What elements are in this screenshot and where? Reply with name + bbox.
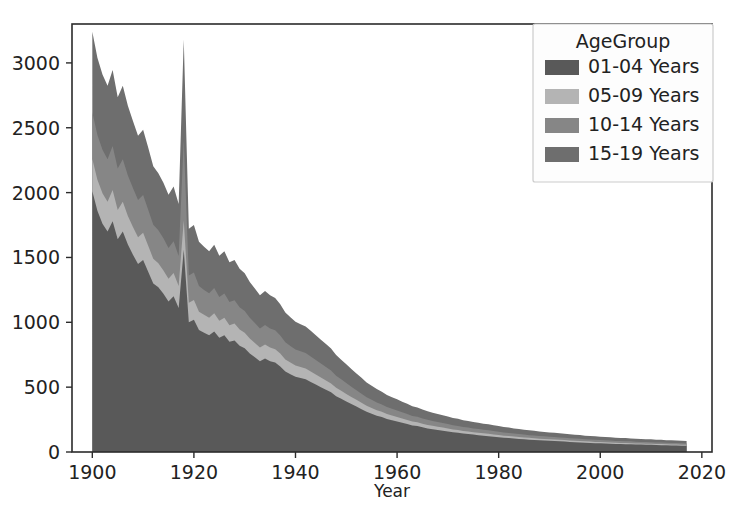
y-tick-label: 1000 <box>12 311 60 333</box>
stacked-area-chart: 1900192019401960198020002020 05001000150… <box>0 0 736 530</box>
x-axis-title: Year <box>373 481 410 501</box>
x-tick-label: 1940 <box>271 461 319 483</box>
legend-title: AgeGroup <box>576 30 671 52</box>
x-tick-label: 1920 <box>170 461 218 483</box>
legend-label: 01-04 Years <box>588 55 699 77</box>
y-tick-label: 0 <box>48 441 60 463</box>
y-tick-label: 1500 <box>12 246 60 268</box>
x-tick-label: 2020 <box>678 461 726 483</box>
legend-swatch <box>545 147 579 162</box>
y-tick-label: 3000 <box>12 52 60 74</box>
y-tick-label: 2000 <box>12 182 60 204</box>
y-tick-label: 2500 <box>12 117 60 139</box>
chart-figure: 1900192019401960198020002020 05001000150… <box>0 0 736 530</box>
legend[interactable]: AgeGroup 01-04 Years05-09 Years10-14 Yea… <box>533 24 713 182</box>
legend-swatch <box>545 118 579 133</box>
legend-label: 10-14 Years <box>588 113 699 135</box>
y-tick-label: 500 <box>24 376 60 398</box>
x-tick-label: 1900 <box>68 461 116 483</box>
x-tick-label: 1980 <box>474 461 522 483</box>
x-tick-label: 1960 <box>373 461 421 483</box>
legend-label: 15-19 Years <box>588 142 699 164</box>
legend-swatch <box>545 60 579 75</box>
x-tick-label: 2000 <box>576 461 624 483</box>
legend-swatch <box>545 89 579 104</box>
legend-label: 05-09 Years <box>588 84 699 106</box>
